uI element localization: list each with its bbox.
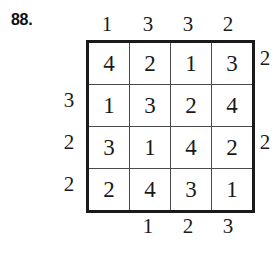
cell-r1c4[interactable]: 3 xyxy=(212,42,254,85)
table-row: 1 3 2 4 xyxy=(88,85,254,127)
cell-r3c4[interactable]: 2 xyxy=(212,127,254,169)
cell-r4c3[interactable]: 3 xyxy=(171,169,212,212)
top-clue-col-3: 3 xyxy=(168,14,208,35)
skyscrapers-grid: 4 2 1 3 1 3 2 4 3 1 4 2 2 xyxy=(86,40,255,213)
cell-r3c1[interactable]: 3 xyxy=(88,127,130,169)
table-row: 4 2 1 3 xyxy=(88,42,254,85)
bottom-clue-col-3: 2 xyxy=(168,216,208,237)
top-clue-col-4: 2 xyxy=(208,14,248,35)
cell-r4c1[interactable]: 2 xyxy=(88,169,130,212)
cell-r1c2[interactable]: 2 xyxy=(130,42,171,85)
cell-r2c1[interactable]: 1 xyxy=(88,85,130,127)
skyscrapers-puzzle-figure: 88. 1 3 3 2 3 2 2 2 2 1 2 3 4 2 1 xyxy=(0,0,279,254)
top-clue-col-1: 1 xyxy=(87,14,127,35)
left-clue-row-2: 3 xyxy=(58,90,80,111)
cell-r2c4[interactable]: 4 xyxy=(212,85,254,127)
cell-r1c3[interactable]: 1 xyxy=(171,42,212,85)
right-clue-row-1: 2 xyxy=(254,48,276,69)
cell-r3c3[interactable]: 4 xyxy=(171,127,212,169)
grid-wrapper: 4 2 1 3 1 3 2 4 3 1 4 2 2 xyxy=(86,40,249,211)
cell-r4c2[interactable]: 4 xyxy=(130,169,171,212)
cell-r3c2[interactable]: 1 xyxy=(130,127,171,169)
table-row: 3 1 4 2 xyxy=(88,127,254,169)
right-clue-row-3: 2 xyxy=(254,132,276,153)
cell-r2c2[interactable]: 3 xyxy=(130,85,171,127)
left-clue-row-3: 2 xyxy=(58,132,80,153)
top-clue-col-2: 3 xyxy=(128,14,168,35)
problem-number-label: 88. xyxy=(11,11,32,29)
bottom-clue-col-4: 3 xyxy=(208,216,248,237)
cell-r1c1[interactable]: 4 xyxy=(88,42,130,85)
cell-r4c4[interactable]: 1 xyxy=(212,169,254,212)
left-clue-row-4: 2 xyxy=(58,174,80,195)
cell-r2c3[interactable]: 2 xyxy=(171,85,212,127)
bottom-clue-col-2: 1 xyxy=(128,216,168,237)
table-row: 2 4 3 1 xyxy=(88,169,254,212)
